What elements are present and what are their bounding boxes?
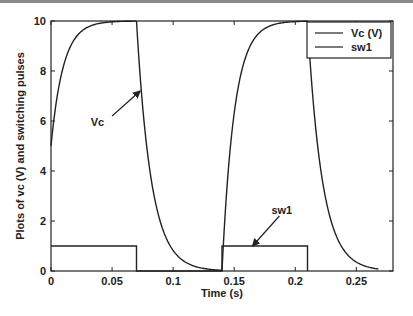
y-tick-label: 6: [40, 115, 46, 127]
x-tick-label: 0: [48, 275, 54, 287]
annotation-arrow-icon: [112, 91, 140, 116]
y-tick-label: 8: [40, 65, 46, 77]
x-tick-label: 0.2: [288, 275, 303, 287]
annotation-arrow-icon: [253, 216, 280, 246]
y-tick-label: 2: [40, 215, 46, 227]
y-tick-label: 0: [40, 265, 46, 277]
y-tick-label: 4: [40, 165, 47, 177]
x-tick-label: 0.25: [346, 275, 367, 287]
chart: 00.050.10.150.20.250246810 Vcsw1 Vc (V)s…: [0, 0, 413, 316]
legend-entry: sw1: [351, 41, 372, 53]
series-sw1: [51, 246, 308, 271]
legend-entry: Vc (V): [351, 27, 383, 39]
annotation-sw1: sw1: [271, 204, 292, 216]
annotations: Vcsw1: [91, 91, 293, 246]
annotation-vc: Vc: [91, 116, 104, 128]
legend: Vc (V)sw1: [307, 22, 391, 58]
y-tick-label: 10: [34, 15, 46, 27]
y-axis-label: Plots of vc (V) and switching pulses: [14, 52, 26, 240]
x-tick-label: 0.05: [101, 275, 122, 287]
x-axis-label: Time (s): [201, 287, 243, 299]
x-tick-label: 0.1: [165, 275, 180, 287]
x-tick-label: 0.15: [224, 275, 245, 287]
